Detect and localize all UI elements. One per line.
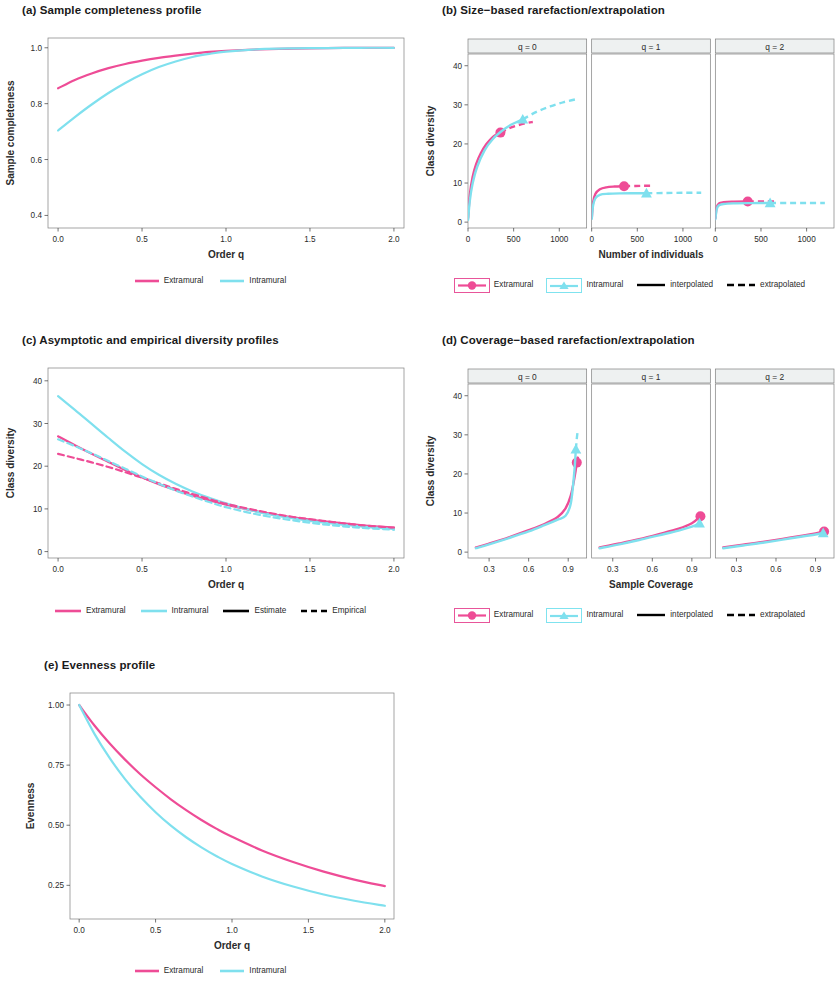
- x-axis-label: Sample Coverage: [609, 579, 693, 590]
- facet-plot-area: [592, 384, 711, 558]
- x-tick-label: 500: [507, 235, 521, 244]
- y-tick-label: 20: [453, 140, 463, 149]
- y-tick-label: 0: [457, 218, 462, 227]
- y-axis-label: Class diversity: [425, 435, 436, 506]
- plot-area: [48, 38, 404, 228]
- facet-label: q = 1: [642, 372, 661, 382]
- panel-d-coverage-based-rarefaction: (d) Coverage−based rarefaction/extrapola…: [420, 330, 839, 623]
- y-tick-label: 0.50: [48, 821, 64, 830]
- legend-item-extrapolated: extrapolated: [726, 611, 805, 619]
- legend-item-extramural: Extramural: [454, 278, 534, 293]
- y-axis-label: Class diversity: [425, 105, 436, 176]
- facet-plot-area: [468, 54, 587, 228]
- panel-a-title: (a) Sample completeness profile: [22, 4, 420, 16]
- solid-line-swatch-icon: [636, 281, 666, 289]
- figure-root: (a) Sample completeness profile 0.00.51.…: [0, 0, 839, 1005]
- panel-c-plot: 0.00.51.01.52.0010203040Order qClass div…: [0, 346, 420, 601]
- x-tick-label: 0.3: [483, 565, 495, 574]
- panel-a-sample-completeness: (a) Sample completeness profile 0.00.51.…: [0, 0, 420, 285]
- y-tick-label: 40: [453, 62, 463, 71]
- x-tick-label: 1.5: [303, 926, 315, 935]
- x-tick-label: 2.0: [388, 565, 400, 574]
- triangle-line-swatch-icon: [549, 280, 579, 291]
- panel-e-legend: Extramural Intramural: [0, 967, 420, 975]
- plot-area: [70, 693, 394, 919]
- facet-label: q = 2: [765, 42, 784, 52]
- legend-label: Intramural: [586, 611, 623, 619]
- x-tick-label: 1.0: [226, 926, 238, 935]
- x-tick-label: 0.5: [150, 926, 162, 935]
- legend-item-empirical: Empirical: [300, 607, 366, 615]
- x-axis-label: Number of individuals: [598, 249, 703, 260]
- facet-label: q = 0: [518, 372, 537, 382]
- panel-c-title: (c) Asymptotic and empirical diversity p…: [22, 334, 420, 346]
- triangle-line-swatch-icon: [549, 610, 579, 621]
- reference-point-marker: [743, 196, 753, 206]
- legend-key-box: [546, 278, 582, 293]
- panel-b-size-based-rarefaction: (b) Size−based rarefaction/extrapolation…: [420, 0, 839, 293]
- y-tick-label: 0.4: [31, 211, 43, 220]
- y-tick-label: 30: [453, 101, 463, 110]
- legend-label: interpolated: [670, 611, 713, 619]
- y-tick-label: 0.25: [48, 881, 64, 890]
- legend-item-intramural: Intramural: [546, 608, 623, 623]
- legend-label: interpolated: [670, 281, 713, 289]
- legend-key-box: [546, 608, 582, 623]
- line-swatch-icon: [219, 967, 245, 975]
- line-swatch-icon: [219, 277, 245, 285]
- solid-line-swatch-icon: [636, 611, 666, 619]
- legend-item-extramural: Extramural: [134, 277, 204, 285]
- y-tick-label: 30: [33, 420, 43, 429]
- legend-label: Intramural: [172, 607, 209, 615]
- x-tick-label: 500: [630, 235, 644, 244]
- panel-d-plot: 010203040Class diversitySample Coverageq…: [420, 346, 839, 604]
- facet-plot-area: [592, 54, 711, 228]
- x-tick-label: 1.0: [220, 235, 232, 244]
- y-tick-label: 10: [453, 179, 463, 188]
- x-tick-label: 2.0: [379, 926, 391, 935]
- y-tick-label: 0.6: [31, 156, 43, 165]
- x-tick-label: 0.9: [686, 565, 698, 574]
- y-tick-label: 40: [33, 377, 43, 386]
- panel-b-title: (b) Size−based rarefaction/extrapolation: [442, 4, 839, 16]
- panel-c-legend: Extramural Intramural Estimate Empirical: [0, 607, 420, 615]
- legend-label: extrapolated: [760, 281, 805, 289]
- legend-item-extramural: Extramural: [134, 967, 204, 975]
- x-tick-label: 0: [589, 235, 594, 244]
- legend-item-intramural: Intramural: [219, 967, 286, 975]
- x-tick-label: 0.9: [810, 565, 822, 574]
- panel-b-plot: 010203040Class diversityNumber of indivi…: [420, 16, 839, 274]
- legend-label: Extramural: [164, 967, 204, 975]
- legend-label: Extramural: [164, 277, 204, 285]
- x-tick-label: 1.0: [220, 565, 232, 574]
- dashed-line-swatch-icon: [300, 607, 328, 615]
- x-axis-label: Order q: [208, 249, 244, 260]
- x-tick-label: 0.9: [563, 565, 575, 574]
- y-tick-label: 0: [37, 548, 42, 557]
- legend-item-extrapolated: extrapolated: [726, 281, 805, 289]
- panel-c-asymptotic-empirical-profiles: (c) Asymptotic and empirical diversity p…: [0, 330, 420, 615]
- y-tick-label: 0.75: [48, 761, 64, 770]
- facet-label: q = 0: [518, 42, 537, 52]
- panel-d-title: (d) Coverage−based rarefaction/extrapola…: [442, 334, 839, 346]
- y-tick-label: 20: [33, 462, 43, 471]
- legend-key-box: [454, 278, 490, 293]
- y-tick-label: 10: [33, 505, 43, 514]
- x-tick-label: 0.5: [136, 565, 148, 574]
- panel-d-legend: Extramural Intramural interpolated extra…: [420, 608, 839, 623]
- x-tick-label: 1000: [674, 235, 693, 244]
- y-axis-label: Sample completeness: [5, 80, 16, 185]
- dashed-line-swatch-icon: [726, 281, 756, 289]
- x-tick-label: 0.6: [647, 565, 659, 574]
- legend-item-intramural: Intramural: [140, 607, 209, 615]
- x-tick-label: 0.0: [52, 565, 64, 574]
- x-tick-label: 1000: [798, 235, 817, 244]
- x-tick-label: 500: [754, 235, 768, 244]
- x-tick-label: 0.3: [731, 565, 743, 574]
- legend-label: Estimate: [254, 607, 286, 615]
- legend-label: Empirical: [332, 607, 366, 615]
- line-swatch-icon: [134, 967, 160, 975]
- y-axis-label: Evenness: [25, 782, 36, 829]
- line-swatch-icon: [140, 607, 168, 615]
- legend-label: Extramural: [494, 281, 534, 289]
